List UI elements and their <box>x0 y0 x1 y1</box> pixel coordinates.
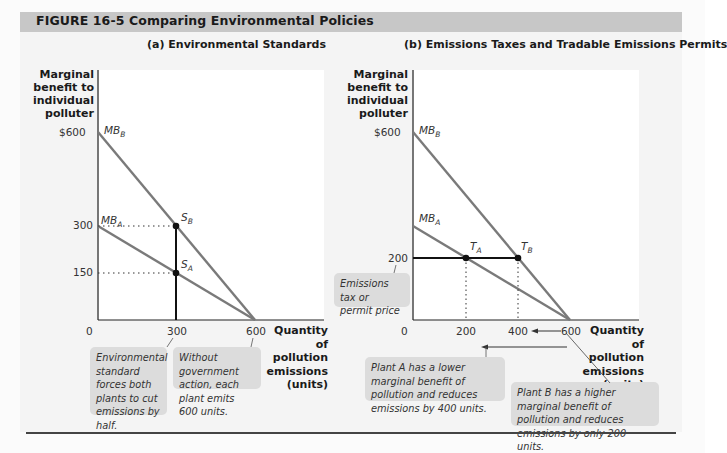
panel-b-point-t-b <box>515 255 522 262</box>
panel-b-arrow-600-to-400 <box>531 329 561 334</box>
panel-b-leader-tax <box>394 265 396 273</box>
panel-a-point-s-b <box>173 223 180 230</box>
panel-b-mb-b-curve <box>413 132 570 320</box>
panel-b-axes <box>413 70 639 320</box>
panel-b-point-t-a <box>463 255 470 262</box>
panel-b-arrow-600-to-200 <box>481 345 567 350</box>
panel-a-leader-600 <box>251 338 253 347</box>
panel-b-mb-a-curve <box>413 226 570 320</box>
panel-a-axes <box>98 70 324 320</box>
panel-a-point-s-a <box>173 270 180 277</box>
panel-b-leader-plant-b <box>566 333 610 383</box>
panel-a-leader-300 <box>167 338 173 347</box>
